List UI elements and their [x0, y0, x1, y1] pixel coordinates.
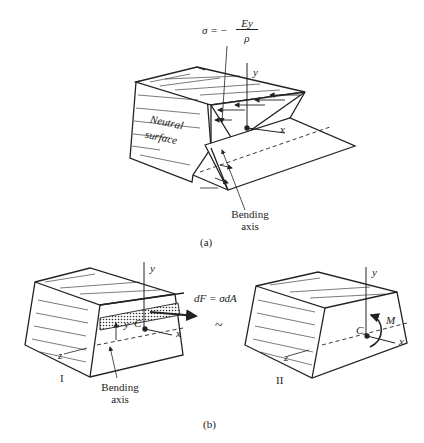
centroid-label-b1: C [134, 317, 141, 329]
part-label-II: II [276, 374, 283, 386]
axis-z-label-b1: z [58, 349, 62, 361]
distance-y-label: y [124, 318, 129, 330]
equivalence-symbol: ~ [215, 318, 223, 334]
axis-z-label-b2: z [284, 351, 288, 363]
part-label-I: I [60, 372, 64, 384]
formula-lhs: σ = − [202, 24, 228, 36]
axis-y-label-b1: y [150, 262, 155, 274]
axis-x-label-a: x [280, 123, 285, 135]
stress-formula: σ = − [202, 24, 228, 36]
axis-x-label-b1: x [176, 327, 181, 339]
bending-axis-label-b-1: Bending [95, 381, 145, 393]
figure-b-part-1 [25, 262, 196, 378]
formula-numerator: Ey [236, 17, 258, 30]
force-label: dF = σdA [194, 292, 237, 304]
caption-a: (a) [200, 236, 212, 248]
axis-y-label-a: y [253, 66, 258, 78]
bending-axis-label-b-2: axis [95, 393, 145, 405]
centroid-label-b2: C [356, 324, 363, 336]
axis-x-label-b2: x [399, 335, 404, 347]
formula-denominator: ρ [236, 32, 258, 44]
bending-axis-label-a-2: axis [225, 220, 275, 232]
axis-y-label-b2: y [372, 266, 377, 278]
caption-b: (b) [203, 418, 216, 430]
moment-label: M [386, 314, 395, 326]
bending-axis-label-a-1: Bending [225, 208, 275, 220]
figure-b-part-2 [245, 267, 407, 378]
figure-a-beam [130, 46, 355, 210]
